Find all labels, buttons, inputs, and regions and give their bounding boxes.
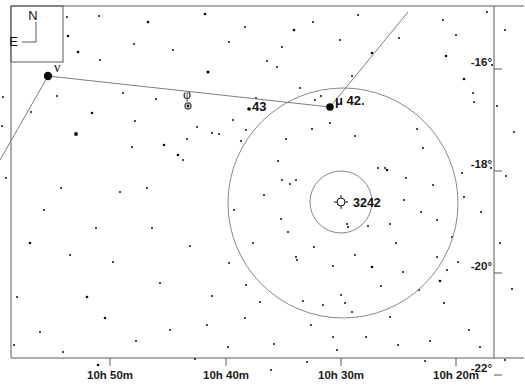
star-point: [56, 95, 58, 97]
star-point: [131, 146, 133, 148]
star-point: [436, 256, 438, 258]
constellation-lines: [0, 12, 408, 160]
star-point: [5, 177, 7, 179]
star-point: [371, 52, 374, 55]
star-point: [340, 294, 342, 296]
sky-plot: N E νφ43μ 423242 10h 50m10h 40m10h 30m10…: [0, 0, 525, 389]
star-point: [380, 285, 382, 287]
star-point: [446, 269, 448, 271]
star-point: [346, 223, 348, 225]
star-point: [266, 60, 268, 62]
star-point: [344, 302, 346, 304]
star-label: φ: [183, 87, 191, 102]
star-point: [30, 111, 32, 113]
dec-tick-label: -22°: [471, 362, 493, 374]
star-point: [332, 336, 334, 338]
star-point: [496, 105, 498, 107]
star-point: [194, 358, 196, 360]
star-point: [146, 187, 148, 189]
star-point: [104, 317, 107, 320]
star-field: [1, 11, 515, 371]
star-point: [429, 340, 431, 342]
star-point: [122, 92, 124, 94]
plot-frame: [11, 6, 524, 358]
star-point: [281, 179, 283, 181]
star-point: [228, 262, 230, 264]
star-point: [186, 138, 188, 140]
star-point: [312, 21, 314, 23]
star-point: [29, 242, 32, 245]
star-point: [403, 199, 405, 201]
star-point: [422, 147, 424, 149]
star-point: [442, 19, 444, 21]
star-point: [455, 34, 457, 36]
star-point: [472, 92, 474, 94]
star-point: [91, 112, 94, 115]
star-point: [339, 39, 341, 41]
star-point: [133, 43, 135, 45]
star-point: [479, 346, 481, 348]
star-point: [182, 159, 184, 161]
star-point: [336, 349, 338, 351]
outer-field-circle: [228, 88, 458, 318]
star-point: [263, 194, 265, 196]
star-point: [468, 329, 470, 331]
ra-tick-label: 10h 40m: [203, 369, 249, 381]
star-point: [134, 120, 136, 122]
star-point: [99, 59, 101, 61]
star-point: [273, 343, 275, 345]
star-point: [293, 29, 296, 32]
star-point: [295, 256, 297, 258]
star-point: [461, 172, 463, 174]
star-point: [2, 96, 4, 98]
star-point: [227, 346, 229, 348]
star-point: [443, 302, 445, 304]
star-point: [233, 209, 235, 211]
star-label: 43: [252, 99, 266, 114]
star-point: [228, 41, 230, 43]
labeled-object: 3242: [334, 195, 381, 210]
star-point: [247, 107, 251, 111]
star-point: [362, 103, 364, 105]
dec-tick-label: -20°: [471, 260, 493, 272]
star-point: [163, 144, 166, 147]
star-point: [287, 231, 289, 233]
compass-north-label: N: [28, 8, 37, 23]
star-point: [155, 98, 157, 100]
star-point: [480, 211, 482, 213]
star-point: [313, 246, 315, 248]
star-point: [211, 295, 213, 297]
constellation-line: [0, 76, 48, 160]
star-point: [329, 122, 331, 124]
star-point: [281, 46, 283, 48]
star-point: [445, 55, 448, 58]
star-point: [473, 101, 475, 103]
star-point: [245, 284, 247, 286]
star-point: [357, 14, 359, 16]
star-point: [285, 138, 287, 140]
ra-tick-label: 10h 50m: [87, 369, 133, 381]
labeled-object: φ: [183, 87, 191, 109]
star-point: [314, 99, 316, 101]
star-point: [405, 177, 407, 179]
star-point: [295, 179, 297, 181]
star-point: [402, 271, 404, 273]
star-point: [367, 225, 369, 227]
star-point: [189, 245, 191, 247]
star-point: [395, 242, 397, 244]
star-point: [206, 70, 209, 73]
star-point: [74, 132, 78, 136]
star-point: [397, 344, 399, 346]
labeled-object: 43: [247, 99, 266, 114]
star-point: [187, 105, 190, 108]
planetary-nebula-icon: [337, 198, 345, 206]
star-point: [196, 126, 198, 128]
star-point: [457, 261, 459, 263]
compass-east-label: E: [9, 34, 18, 49]
star-point: [302, 300, 304, 302]
star-point: [310, 324, 312, 326]
star-point: [389, 223, 391, 225]
star-point: [289, 183, 291, 185]
labeled-object: μ 42: [326, 93, 361, 111]
dec-tick-label: -16°: [471, 56, 493, 68]
